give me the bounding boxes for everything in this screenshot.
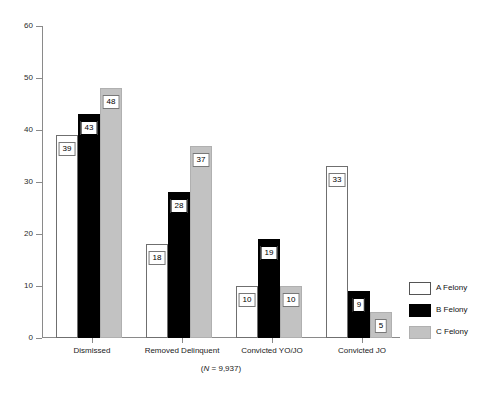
x-axis-label-convicted-jo: Convicted JO [338,345,386,356]
legend-swatch-a-felony-icon [409,282,431,295]
bar-value-label: 10 [283,293,300,307]
bar-value-label: 10 [239,293,256,307]
y-tick-label-40: 40 [24,124,33,135]
legend-swatch-c-felony-icon [409,326,431,339]
bar-removed-delinquent-c-felony[interactable]: 37 [190,146,212,338]
x-axis-label-removed-delinquent: Removed Delinquent [145,345,220,356]
bar-value-label: 43 [81,121,98,135]
bar-dismissed-b-felony[interactable]: 43 [78,114,100,338]
y-tick-0: 0 [36,338,42,339]
bar-value-label: 28 [171,199,188,213]
legend-item-b-felony[interactable]: B Felony [409,300,483,320]
bar-value-label: 37 [193,153,210,167]
bar-dismissed-a-felony[interactable]: 39 [56,135,78,338]
y-tick-60: 60 [36,26,42,27]
x-axis-label-convicted-yo-jo: Convicted YO/JO [241,345,303,356]
bar-dismissed-c-felony[interactable]: 48 [100,88,122,338]
bar-value-label: 33 [329,173,346,187]
bar-value-label: 48 [103,95,120,109]
chart-legend: A Felony B Felony C Felony [409,278,483,344]
legend-swatch-b-felony-icon [409,304,431,317]
bar-value-label: 9 [353,298,365,312]
bar-group-removed-delinquent: 18 28 37 Removed Delinquent [142,26,222,338]
bar-group-dismissed: 39 43 48 Dismissed [52,26,132,338]
x-axis-label-dismissed: Dismissed [74,345,111,356]
bar-value-label: 18 [149,251,166,265]
y-tick-label-20: 20 [24,228,33,239]
bar-value-label: 5 [375,319,387,333]
bar-removed-delinquent-b-felony[interactable]: 28 [168,192,190,338]
y-tick-label-30: 30 [24,176,33,187]
chart-sample-size-note: (N = 9,937) [42,364,400,373]
y-tick-30: 30 [36,182,42,183]
y-tick-50: 50 [36,78,42,79]
bar-removed-delinquent-a-felony[interactable]: 18 [146,244,168,338]
legend-item-a-felony[interactable]: A Felony [409,278,483,298]
y-axis-line [42,26,43,338]
x-tick-convicted-yo-jo [272,338,273,343]
y-tick-40: 40 [36,130,42,131]
y-tick-label-0: 0 [29,332,33,343]
figure-bar-chart: 60 50 40 30 20 10 0 39 43 48 [0,0,486,401]
x-tick-convicted-jo [362,338,363,343]
bar-value-label: 19 [261,246,278,260]
bar-convicted-yo-jo-a-felony[interactable]: 10 [236,286,258,338]
y-tick-10: 10 [36,286,42,287]
bar-group-convicted-jo: 33 9 5 Convicted JO [322,26,402,338]
x-tick-dismissed [92,338,93,343]
legend-label-b-felony: B Felony [436,305,468,315]
bar-convicted-jo-a-felony[interactable]: 33 [326,166,348,338]
bar-convicted-yo-jo-b-felony[interactable]: 19 [258,239,280,338]
plot-area: 60 50 40 30 20 10 0 39 43 48 [42,26,400,338]
bar-convicted-jo-c-felony[interactable]: 5 [370,312,392,338]
bar-convicted-jo-b-felony[interactable]: 9 [348,291,370,338]
y-tick-label-60: 60 [24,20,33,31]
bar-group-convicted-yo-jo: 10 19 10 Convicted YO/JO [232,26,312,338]
y-tick-label-50: 50 [24,72,33,83]
legend-label-a-felony: A Felony [436,283,467,293]
bar-value-label: 39 [59,142,76,156]
bar-convicted-yo-jo-c-felony[interactable]: 10 [280,286,302,338]
x-tick-removed-delinquent [182,338,183,343]
y-tick-20: 20 [36,234,42,235]
caption-value: = 9,937) [209,364,241,373]
y-tick-label-10: 10 [24,280,33,291]
legend-item-c-felony[interactable]: C Felony [409,322,483,342]
legend-label-c-felony: C Felony [436,327,468,337]
